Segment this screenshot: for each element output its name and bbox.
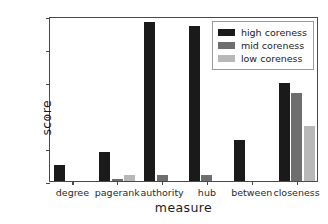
y-tick-mark [46,117,50,118]
y-tick-mark [46,150,50,151]
legend-swatch-icon [218,29,235,36]
y-tick-mark [46,51,50,52]
bar-pagerank-mid [112,179,123,181]
y-tick-mark [46,18,50,19]
bar-between-high [234,140,245,181]
chart-legend: high corenessmid corenesslow coreness [212,21,314,70]
y-tick-mark [46,183,50,184]
bar-authority-high [144,22,155,181]
x-tick-mark [72,181,73,185]
x-tick-label-closeness: closeness [273,187,319,198]
x-axis-title: measure [50,200,317,215]
x-tick-mark [297,181,298,185]
x-tick-label-degree: degree [56,187,89,198]
legend-item: low coreness [218,52,307,65]
bar-degree-high [54,165,65,181]
bar-closeness-mid [291,93,302,181]
x-tick-mark [207,181,208,185]
x-tick-mark [117,181,118,185]
bar-authority-mid [157,175,168,181]
bar-hub-mid [201,175,212,181]
legend-swatch-icon [218,55,235,62]
bar-hub-high [189,26,200,181]
x-tick-label-authority: authority [140,187,183,198]
x-tick-mark [252,181,253,185]
x-tick-label-between: between [231,187,272,198]
x-tick-label-hub: hub [198,187,216,198]
bar-chart-figure: score 0.00.10.20.30.40.5 measure degreep… [0,0,328,224]
legend-item: mid coreness [218,39,307,52]
legend-label: high coreness [241,27,307,38]
x-tick-label-pagerank: pagerank [95,187,140,198]
y-tick-mark [46,84,50,85]
legend-label: low coreness [241,53,303,64]
plot-area: score 0.00.10.20.30.40.5 measure degreep… [49,17,318,182]
legend-label: mid coreness [241,40,304,51]
bar-closeness-high [279,83,290,181]
bar-pagerank-high [99,152,110,181]
bar-pagerank-low [124,175,135,181]
legend-item: high coreness [218,26,307,39]
legend-swatch-icon [218,42,235,49]
x-tick-mark [162,181,163,185]
bar-closeness-low [304,126,315,181]
